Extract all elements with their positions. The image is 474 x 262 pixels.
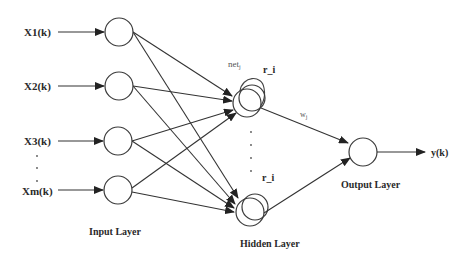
input-node-2 <box>105 72 133 100</box>
input-node-3 <box>104 127 132 155</box>
hidden-layer-caption: Hidden Layer <box>240 238 300 249</box>
net-label: netj <box>228 59 241 70</box>
hidden-node-top <box>233 89 261 117</box>
input-ellipsis <box>36 155 38 182</box>
hidden-output-edge-bottom <box>264 158 350 213</box>
weight-label: wj <box>300 110 308 120</box>
output-node <box>349 138 377 166</box>
output-label: y(k) <box>431 147 448 159</box>
neural-network-diagram: X1(k) X2(k) X3(k) Xm(k) netj r_i <box>0 0 474 262</box>
recurrent-label-top: r_i <box>263 64 275 75</box>
input-layer-caption: Input Layer <box>89 226 142 237</box>
hidden-node-bottom <box>236 198 264 226</box>
input-label-xm: Xm(k) <box>22 185 53 198</box>
input-label-x2: X2(k) <box>24 80 51 93</box>
input-label-x3: X3(k) <box>24 135 51 148</box>
input-label-x1: X1(k) <box>24 26 51 39</box>
input-node-1 <box>105 18 133 46</box>
input-hidden-connections <box>132 32 238 212</box>
hidden-ellipsis <box>250 131 252 172</box>
recurrent-label-bottom: r_i <box>262 172 274 183</box>
output-layer-caption: Output Layer <box>341 179 401 190</box>
input-node-m <box>104 176 132 204</box>
